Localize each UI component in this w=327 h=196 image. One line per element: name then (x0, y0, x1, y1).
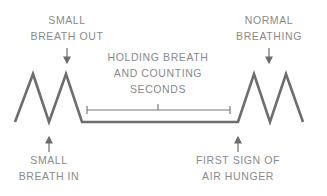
label-line: AND COUNTING (98, 65, 218, 81)
label-line: AIR HUNGER (194, 168, 282, 184)
label-line: NORMAL (230, 12, 308, 28)
label-first-sign-air-hunger: FIRST SIGN OF AIR HUNGER (194, 152, 282, 184)
label-small-breath-out: SMALL BREATH OUT (24, 12, 110, 44)
arrow-up-icon (235, 137, 241, 152)
label-line: BREATH IN (10, 168, 88, 184)
arrow-down-icon (64, 48, 70, 63)
label-line: FIRST SIGN OF (194, 152, 282, 168)
label-line: SECONDS (98, 81, 218, 97)
label-line: SMALL (24, 12, 110, 28)
label-small-breath-in: SMALL BREATH IN (10, 152, 88, 184)
label-holding-breath: HOLDING BREATH AND COUNTING SECONDS (98, 49, 218, 97)
label-line: BREATHING (230, 28, 308, 44)
label-normal-breathing: NORMAL BREATHING (230, 12, 308, 44)
arrow-down-icon (266, 48, 272, 63)
label-line: SMALL (10, 152, 88, 168)
hold-duration-bracket (87, 104, 230, 114)
label-line: BREATH OUT (24, 28, 110, 44)
label-line: HOLDING BREATH (98, 49, 218, 65)
arrow-up-icon (46, 137, 52, 152)
